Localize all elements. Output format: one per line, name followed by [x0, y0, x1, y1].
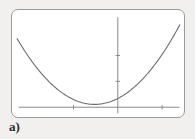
plot-card [11, 9, 185, 118]
axes-group [19, 17, 180, 113]
figure-container: a) [0, 0, 195, 139]
parabola-plot [12, 10, 185, 118]
figure-label: a) [9, 119, 20, 134]
parabola-curve [17, 25, 180, 105]
